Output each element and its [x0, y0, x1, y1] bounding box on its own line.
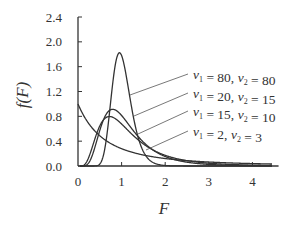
legend-label: ν1 = 80, ν2 = 80 — [193, 67, 276, 88]
y-tick-label: 0.8 — [46, 109, 62, 124]
y-tick-label: 1.2 — [46, 84, 62, 99]
leader-line — [138, 111, 188, 134]
y-tick-label: 0.0 — [46, 159, 62, 174]
legend-label: ν1 = 15, ν2 = 10 — [193, 104, 276, 125]
legend: ν1 = 80, ν2 = 80ν1 = 20, ν2 = 15ν1 = 15,… — [193, 67, 276, 145]
y-tick-label: 2.0 — [46, 34, 62, 49]
y-tick-label: 2.4 — [46, 10, 63, 25]
y-tick-label: 1.6 — [46, 59, 63, 74]
y-tick-label: 0.4 — [46, 134, 63, 149]
f-distribution-chart: 0.00.40.81.21.62.02.4 01234 ν1 = 80, ν2 … — [0, 0, 298, 227]
x-tick-label: 3 — [206, 174, 213, 189]
y-axis-title: f(F) — [13, 81, 32, 108]
x-tick-labels: 01234 — [75, 174, 256, 189]
legend-label: ν1 = 20, ν2 = 15 — [193, 86, 276, 107]
leader-line — [146, 131, 188, 150]
x-tick-label: 0 — [75, 174, 82, 189]
leader-line — [134, 93, 188, 116]
y-tick-labels: 0.00.40.81.21.62.02.4 — [46, 10, 63, 174]
x-axis-title: F — [158, 199, 170, 218]
legend-label: ν1 = 2, ν2 = 3 — [193, 124, 262, 145]
leader-line — [130, 74, 188, 95]
x-tick-label: 2 — [162, 174, 169, 189]
x-tick-label: 1 — [118, 174, 125, 189]
x-tick-label: 4 — [249, 174, 256, 189]
